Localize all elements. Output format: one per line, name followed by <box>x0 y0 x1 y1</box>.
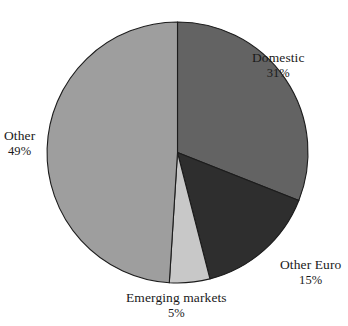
slice-label-other: Other 49% <box>4 128 35 158</box>
slice-label-other-name: Other <box>4 128 35 143</box>
slice-label-other-euro-name: Other Euro <box>280 257 341 272</box>
slice-label-other-value: 49% <box>4 144 35 158</box>
slice-label-domestic-value: 31% <box>252 66 305 80</box>
slice-label-emerging-markets-value: 5% <box>126 306 227 320</box>
slice-label-other-euro-value: 15% <box>280 273 341 287</box>
slice-label-other-euro: Other Euro 15% <box>280 257 341 287</box>
slice-label-emerging-markets: Emerging markets 5% <box>126 290 227 320</box>
slice-label-domestic: Domestic 31% <box>252 50 305 80</box>
slice-label-emerging-markets-name: Emerging markets <box>126 290 227 305</box>
pie-chart: Domestic 31% Other Euro 15% Other 49% Em… <box>0 0 348 326</box>
slice-label-domestic-name: Domestic <box>252 50 305 65</box>
pie-slice-other <box>47 22 177 283</box>
